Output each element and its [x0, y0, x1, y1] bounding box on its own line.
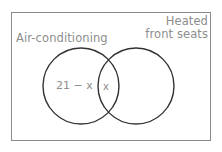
- set-label-air-conditioning: Air-conditioning: [16, 32, 108, 45]
- venn-diagram-figure: Air-conditioning Heated front seats 21 −…: [0, 0, 222, 152]
- region-label-left-only: 21 − x: [56, 80, 93, 92]
- set-label-heated-front-seats-line2: front seats: [145, 28, 208, 41]
- set-label-heated-front-seats: Heated front seats: [145, 15, 208, 41]
- set-circle-heated-front-seats: [98, 48, 174, 124]
- region-label-intersection: x: [103, 81, 109, 93]
